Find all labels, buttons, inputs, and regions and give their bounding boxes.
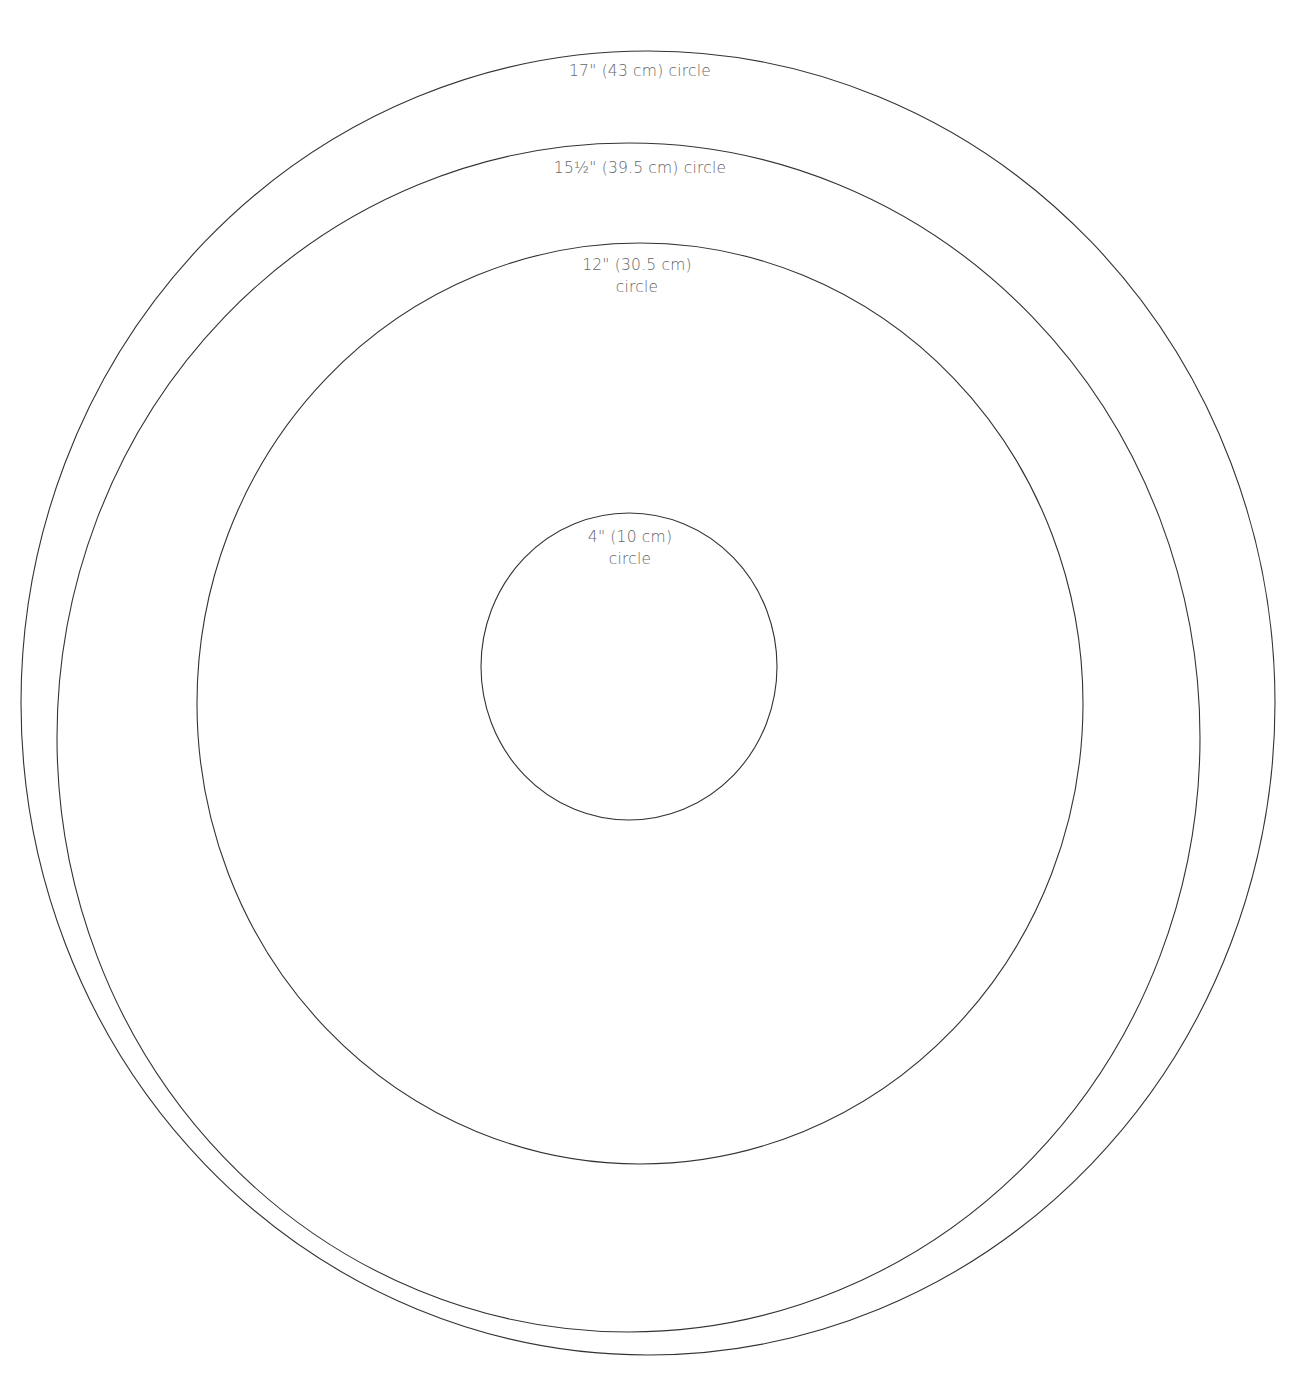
circle-15-5in-label-line1: 15½" (39.5 cm) circle <box>554 157 726 179</box>
circle-12in-label: 12" (30.5 cm) circle <box>582 254 692 298</box>
circle-12in-label-line1: 12" (30.5 cm) <box>582 254 692 276</box>
circle-17in-label: 17" (43 cm) circle <box>569 60 711 82</box>
circle-17in-label-line1: 17" (43 cm) circle <box>569 60 711 82</box>
circle-15-5in-outline <box>57 143 1200 1332</box>
concentric-circles-diagram <box>0 0 1301 1374</box>
circle-4in-label: 4" (10 cm) circle <box>588 526 672 570</box>
circle-12in-label-line2: circle <box>582 276 692 298</box>
circle-15-5in-label: 15½" (39.5 cm) circle <box>554 157 726 179</box>
circle-12in-outline <box>197 243 1083 1164</box>
circle-4in-label-line1: 4" (10 cm) <box>588 526 672 548</box>
circle-4in-label-line2: circle <box>588 548 672 570</box>
circle-17in-outline <box>21 51 1275 1355</box>
